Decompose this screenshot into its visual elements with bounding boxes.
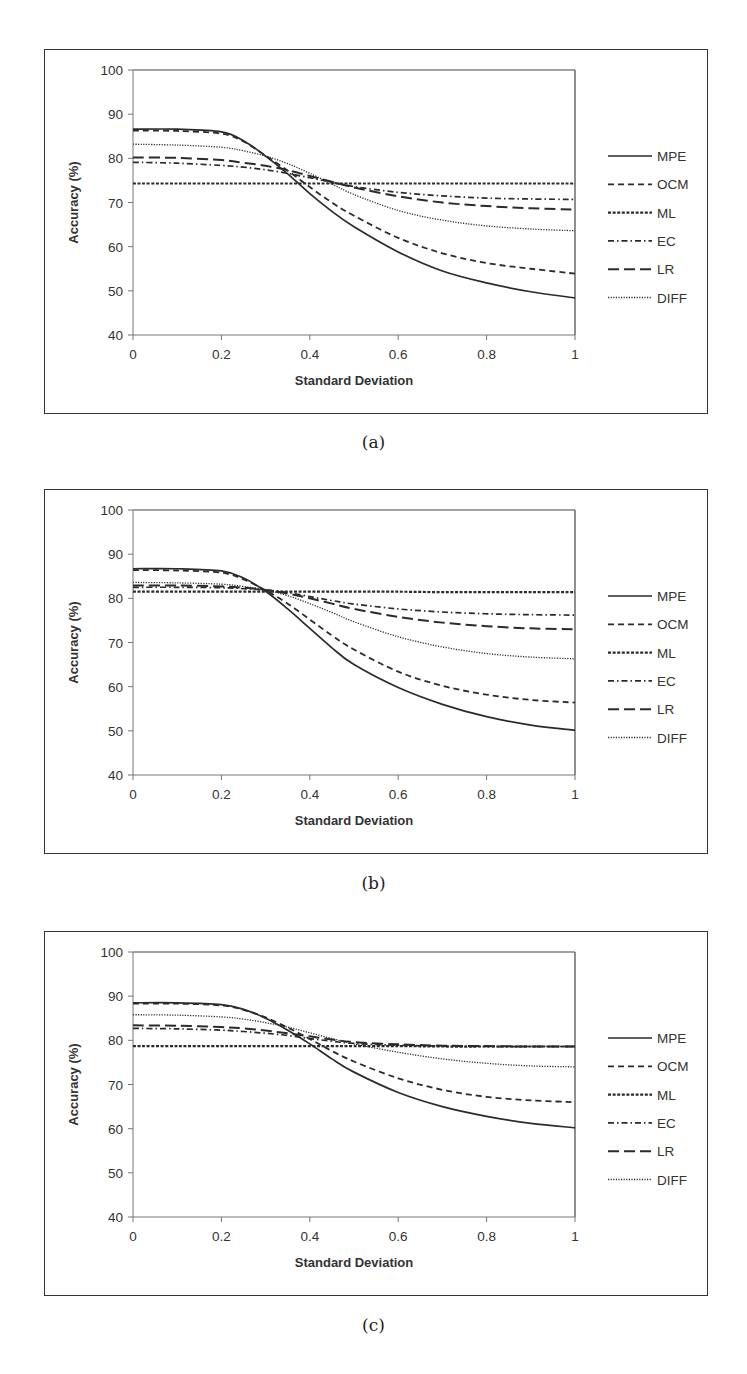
caption-a: (a) xyxy=(0,432,747,452)
x-tick-label: 0.8 xyxy=(477,787,496,802)
legend-label-lr: LR xyxy=(657,262,675,277)
series-line-ocm xyxy=(133,1004,575,1103)
series-line-ec xyxy=(133,1028,575,1046)
y-tick-label: 100 xyxy=(100,63,123,78)
legend-label-mpe: MPE xyxy=(657,149,686,164)
legend-label-diff: DIFF xyxy=(657,291,687,306)
x-tick-label: 1 xyxy=(571,347,579,362)
legend-label-lr: LR xyxy=(657,1144,675,1159)
y-tick-label: 90 xyxy=(108,107,123,122)
legend-label-ocm: OCM xyxy=(657,177,689,192)
y-tick-label: 90 xyxy=(108,989,123,1004)
y-tick-label: 40 xyxy=(108,768,123,783)
y-axis-title: Accuracy (%) xyxy=(66,601,81,683)
x-tick-label: 0.6 xyxy=(389,1229,408,1244)
series-line-diff xyxy=(133,582,575,658)
legend-label-diff: DIFF xyxy=(657,1173,687,1188)
x-tick-label: 1 xyxy=(571,1229,579,1244)
y-axis-title: Accuracy (%) xyxy=(66,161,81,243)
y-tick-label: 40 xyxy=(108,1210,123,1225)
caption-b: (b) xyxy=(0,873,747,893)
y-tick-label: 70 xyxy=(108,1078,123,1093)
y-tick-label: 60 xyxy=(108,680,123,695)
chart-frame-c: 40506070809010000.20.40.60.81Standard De… xyxy=(44,931,708,1296)
legend-label-mpe: MPE xyxy=(657,589,686,604)
legend-label-ocm: OCM xyxy=(657,617,689,632)
x-tick-label: 0.2 xyxy=(212,347,231,362)
legend: MPEOCMMLECLRDIFF xyxy=(608,149,689,306)
x-tick-label: 0 xyxy=(129,1229,137,1244)
x-tick-label: 0.8 xyxy=(477,1229,496,1244)
x-tick-label: 0.8 xyxy=(477,347,496,362)
x-axis-title: Standard Deviation xyxy=(295,813,414,828)
x-tick-label: 0.6 xyxy=(389,347,408,362)
series-line-ocm xyxy=(133,131,575,274)
series-line-ocm xyxy=(133,570,575,703)
y-tick-label: 70 xyxy=(108,636,123,651)
legend: MPEOCMMLECLRDIFF xyxy=(608,589,689,746)
legend-label-lr: LR xyxy=(657,702,675,717)
x-tick-label: 0.4 xyxy=(300,1229,319,1244)
line-chart-c: 40506070809010000.20.40.60.81Standard De… xyxy=(45,932,709,1300)
legend-label-ec: EC xyxy=(657,1116,676,1131)
y-tick-label: 50 xyxy=(108,724,123,739)
y-tick-label: 90 xyxy=(108,547,123,562)
legend-label-mpe: MPE xyxy=(657,1031,686,1046)
legend-label-diff: DIFF xyxy=(657,731,687,746)
x-tick-label: 0.2 xyxy=(212,787,231,802)
line-chart-b: 40506070809010000.20.40.60.81Standard De… xyxy=(45,490,709,858)
x-tick-label: 0.2 xyxy=(212,1229,231,1244)
x-axis-title: Standard Deviation xyxy=(295,1255,414,1270)
legend-label-ec: EC xyxy=(657,234,676,249)
chart-frame-b: 40506070809010000.20.40.60.81Standard De… xyxy=(44,489,708,854)
legend: MPEOCMMLECLRDIFF xyxy=(608,1031,689,1188)
legend-label-ocm: OCM xyxy=(657,1059,689,1074)
y-tick-label: 100 xyxy=(100,503,123,518)
x-tick-label: 0 xyxy=(129,347,137,362)
series-line-ml xyxy=(133,592,575,593)
y-tick-label: 60 xyxy=(108,1122,123,1137)
y-tick-label: 50 xyxy=(108,284,123,299)
series-line-diff xyxy=(133,1015,575,1067)
y-tick-label: 40 xyxy=(108,328,123,343)
chart-frame-a: 40506070809010000.20.40.60.81Standard De… xyxy=(44,49,708,414)
x-tick-label: 0 xyxy=(129,787,137,802)
x-tick-label: 0.6 xyxy=(389,787,408,802)
x-tick-label: 0.4 xyxy=(300,347,319,362)
x-axis-title: Standard Deviation xyxy=(295,373,414,388)
series-line-mpe xyxy=(133,129,575,298)
x-tick-label: 0.4 xyxy=(300,787,319,802)
y-tick-label: 80 xyxy=(108,151,123,166)
y-tick-label: 100 xyxy=(100,945,123,960)
legend-label-ml: ML xyxy=(657,1088,676,1103)
y-tick-label: 60 xyxy=(108,240,123,255)
y-tick-label: 80 xyxy=(108,1033,123,1048)
y-tick-label: 80 xyxy=(108,591,123,606)
y-tick-label: 50 xyxy=(108,1166,123,1181)
line-chart-a: 40506070809010000.20.40.60.81Standard De… xyxy=(45,50,709,415)
y-tick-label: 70 xyxy=(108,196,123,211)
legend-label-ml: ML xyxy=(657,206,676,221)
y-axis-title: Accuracy (%) xyxy=(66,1043,81,1125)
legend-label-ml: ML xyxy=(657,646,676,661)
series-line-ec xyxy=(133,162,575,199)
caption-c: (c) xyxy=(0,1315,747,1335)
legend-label-ec: EC xyxy=(657,674,676,689)
x-tick-label: 1 xyxy=(571,787,579,802)
